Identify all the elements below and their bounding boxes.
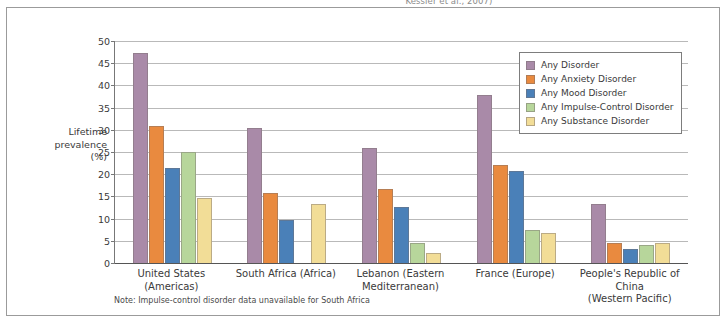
gridline-0 xyxy=(115,263,688,264)
legend-label: Any Disorder xyxy=(541,60,599,70)
caption-sliver-text: Kessler et al., 2007) xyxy=(405,0,492,6)
bar[interactable] xyxy=(279,220,294,264)
y-tick-label-5: 5 xyxy=(104,235,110,246)
legend-item[interactable]: Any Substance Disorder xyxy=(526,114,673,128)
bar[interactable] xyxy=(378,189,393,263)
bar[interactable] xyxy=(623,249,638,263)
x-axis-label: People's Republic of China(Western Pacif… xyxy=(572,268,687,306)
x-axis-label-line: Lebanon (Eastern xyxy=(343,268,458,281)
legend-swatch-icon xyxy=(526,75,535,84)
y-tick-label-45: 45 xyxy=(98,58,110,69)
y-tick-label-0: 0 xyxy=(104,258,110,269)
x-axis-label-line: People's Republic of China xyxy=(572,268,687,293)
y-tick-label-10: 10 xyxy=(98,213,110,224)
y-tick-label-35: 35 xyxy=(98,102,110,113)
legend-swatch-icon xyxy=(526,117,535,126)
x-axis-label-line: France (Europe) xyxy=(458,268,573,281)
legend-label: Any Anxiety Disorder xyxy=(541,74,636,84)
y-axis-title-line-2: prevalence xyxy=(41,139,107,152)
bar[interactable] xyxy=(493,165,508,263)
x-axis-label: France (Europe) xyxy=(458,268,573,306)
bar[interactable] xyxy=(655,243,670,263)
bar[interactable] xyxy=(311,204,326,263)
bar[interactable] xyxy=(541,233,556,263)
bar-group xyxy=(230,41,345,263)
y-axis-title-line-3: (%) xyxy=(41,151,107,164)
x-axis-label-line: United States (Americas) xyxy=(114,268,229,293)
figure-frame: Lifetime prevalence (%) 0510152025303540… xyxy=(6,7,720,316)
legend-item[interactable]: Any Disorder xyxy=(526,58,673,72)
legend-swatch-icon xyxy=(526,103,535,112)
y-axis-title: Lifetime prevalence (%) xyxy=(41,126,107,164)
bar[interactable] xyxy=(247,128,262,263)
bar[interactable] xyxy=(509,171,524,263)
y-tick-label-50: 50 xyxy=(98,36,110,47)
bar[interactable] xyxy=(263,193,278,263)
bar[interactable] xyxy=(410,243,425,263)
y-tick-mark-0 xyxy=(111,263,115,264)
bar[interactable] xyxy=(426,253,441,263)
legend-item[interactable]: Any Impulse-Control Disorder xyxy=(526,100,673,114)
bar[interactable] xyxy=(165,168,180,263)
bar-group xyxy=(115,41,230,263)
legend-label: Any Mood Disorder xyxy=(541,88,627,98)
legend-label: Any Substance Disorder xyxy=(541,116,649,126)
y-tick-label-40: 40 xyxy=(98,80,110,91)
bar[interactable] xyxy=(639,245,654,263)
y-tick-label-15: 15 xyxy=(98,191,110,202)
x-axis-label-line: (Western Pacific) xyxy=(572,293,687,306)
legend-item[interactable]: Any Anxiety Disorder xyxy=(526,72,673,86)
caption-sliver: Kessler et al., 2007) xyxy=(0,0,728,6)
x-axis-label-line: Mediterranean) xyxy=(343,281,458,294)
bar[interactable] xyxy=(477,95,492,263)
legend: Any DisorderAny Anxiety DisorderAny Mood… xyxy=(519,52,682,134)
chart-note: Note: Impulse-control disorder data unav… xyxy=(114,296,370,305)
bar[interactable] xyxy=(394,207,409,263)
bar[interactable] xyxy=(149,126,164,263)
bar[interactable] xyxy=(181,152,196,263)
legend-label: Any Impulse-Control Disorder xyxy=(541,102,673,112)
bar-group xyxy=(344,41,459,263)
x-axis-label-line: South Africa (Africa) xyxy=(229,268,344,281)
bar[interactable] xyxy=(197,198,212,263)
y-axis-title-line-1: Lifetime xyxy=(41,126,107,139)
bar[interactable] xyxy=(133,53,148,263)
legend-item[interactable]: Any Mood Disorder xyxy=(526,86,673,100)
legend-swatch-icon xyxy=(526,89,535,98)
bar[interactable] xyxy=(607,243,622,263)
legend-swatch-icon xyxy=(526,61,535,70)
y-tick-label-20: 20 xyxy=(98,169,110,180)
bar[interactable] xyxy=(525,230,540,263)
bar[interactable] xyxy=(362,148,377,263)
bar[interactable] xyxy=(591,204,606,263)
